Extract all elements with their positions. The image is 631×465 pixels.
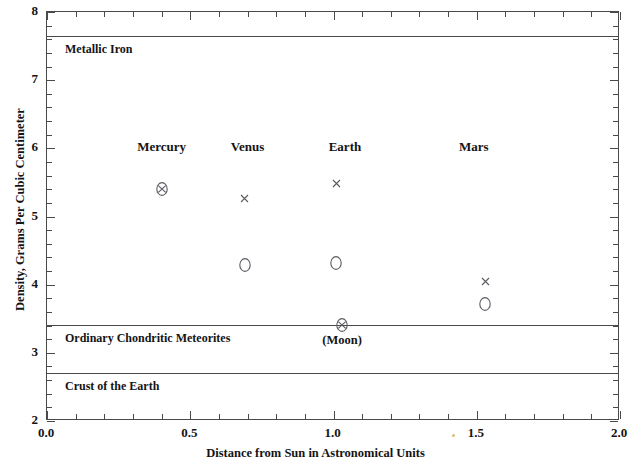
reference-line: [47, 36, 618, 37]
y-tick-minor: [47, 67, 52, 68]
data-point-mars-x: [481, 277, 490, 286]
x-tick-minor: [362, 414, 363, 419]
y-tick-major: [47, 285, 55, 286]
x-tick-minor-top: [76, 12, 77, 17]
y-tick-minor: [47, 162, 52, 163]
y-tick-minor: [47, 230, 52, 231]
y-tick-minor: [47, 176, 52, 177]
y-tick-label: 8: [2, 4, 38, 17]
y-tick-minor: [47, 257, 52, 258]
y-tick-minor-right: [613, 176, 618, 177]
x-tick-major-top: [620, 12, 621, 20]
x-tick-minor: [391, 414, 392, 419]
y-tick-minor-right: [613, 394, 618, 395]
y-tick-major: [47, 217, 55, 218]
y-tick-major: [47, 421, 55, 422]
y-tick-minor-right: [613, 26, 618, 27]
x-tick-label: 2.0: [589, 426, 631, 439]
y-tick-minor-right: [613, 366, 618, 367]
planet-label-mars: Mars: [414, 139, 534, 155]
x-tick-major: [47, 411, 48, 419]
y-tick-major-right: [610, 285, 618, 286]
y-tick-minor: [47, 244, 52, 245]
y-tick-minor-right: [613, 244, 618, 245]
x-tick-minor-top: [591, 12, 592, 17]
x-tick-minor: [76, 414, 77, 419]
data-point-venus-x: [240, 194, 249, 203]
y-tick-major-right: [610, 217, 618, 218]
x-tick-major: [477, 411, 478, 419]
x-tick-major-top: [47, 12, 48, 20]
y-tick-major-right: [610, 12, 618, 13]
x-tick-minor: [505, 414, 506, 419]
y-tick-major: [47, 148, 55, 149]
x-tick-label: 1.0: [303, 426, 363, 439]
y-tick-major: [47, 353, 55, 354]
y-tick-minor: [47, 394, 52, 395]
y-tick-minor-right: [613, 298, 618, 299]
data-point-venus-open-circle: [238, 257, 252, 273]
plot-area: Metallic IronOrdinary Chondritic Meteori…: [46, 11, 619, 420]
scan-artifact-dot: [452, 434, 455, 437]
x-tick-minor: [104, 414, 105, 419]
x-tick-label: 0.0: [16, 426, 76, 439]
planet-label-earth: Earth: [285, 139, 405, 155]
x-tick-minor-top: [448, 12, 449, 17]
x-tick-major: [334, 411, 335, 419]
x-axis-title: Distance from Sun in Astronomical Units: [0, 446, 631, 461]
x-tick-label: 0.5: [159, 426, 219, 439]
x-tick-minor: [219, 414, 220, 419]
x-tick-major-top: [334, 12, 335, 20]
y-tick-minor: [47, 53, 52, 54]
y-tick-major-right: [610, 353, 618, 354]
y-tick-minor-right: [613, 312, 618, 313]
x-tick-minor-top: [362, 12, 363, 17]
x-tick-minor: [534, 414, 535, 419]
data-point-earth-x: [332, 179, 341, 188]
y-tick-minor: [47, 94, 52, 95]
y-tick-minor: [47, 121, 52, 122]
reference-line-label: Crust of the Earth: [65, 379, 159, 394]
x-tick-minor-top: [133, 12, 134, 17]
moon-label: (Moon): [282, 333, 402, 348]
x-tick-minor-top: [219, 12, 220, 17]
y-tick-minor: [47, 39, 52, 40]
y-tick-label: 5: [2, 209, 38, 222]
y-tick-minor-right: [613, 407, 618, 408]
y-tick-major: [47, 12, 55, 13]
data-point-mars-open-circle: [478, 296, 492, 312]
y-tick-minor-right: [613, 203, 618, 204]
y-tick-minor: [47, 135, 52, 136]
y-tick-label: 7: [2, 72, 38, 85]
y-tick-minor: [47, 26, 52, 27]
y-tick-major-right: [610, 421, 618, 422]
x-tick-minor-top: [104, 12, 105, 17]
y-tick-major: [47, 80, 55, 81]
y-tick-minor: [47, 380, 52, 381]
x-tick-major-top: [477, 12, 478, 20]
x-tick-minor: [162, 414, 163, 419]
data-point-moon-circled-x: [335, 317, 349, 333]
y-tick-minor: [47, 203, 52, 204]
y-tick-minor-right: [613, 339, 618, 340]
y-tick-minor: [47, 407, 52, 408]
x-tick-major: [190, 411, 191, 419]
x-tick-minor: [305, 414, 306, 419]
x-tick-minor: [248, 414, 249, 419]
x-tick-major-top: [190, 12, 191, 20]
y-tick-minor-right: [613, 121, 618, 122]
x-tick-minor-top: [534, 12, 535, 17]
x-tick-minor-top: [162, 12, 163, 17]
x-tick-minor-top: [276, 12, 277, 17]
reference-line-label: Metallic Iron: [65, 42, 132, 57]
y-tick-minor: [47, 339, 52, 340]
x-tick-label: 1.5: [446, 426, 506, 439]
density-vs-distance-chart: Density, Grams Per Cubic Centimeter Dist…: [0, 0, 631, 465]
y-tick-minor-right: [613, 67, 618, 68]
y-tick-minor: [47, 189, 52, 190]
x-tick-minor: [563, 414, 564, 419]
y-tick-major-right: [610, 148, 618, 149]
y-tick-minor: [47, 271, 52, 272]
x-tick-minor: [133, 414, 134, 419]
x-tick-minor-top: [248, 12, 249, 17]
